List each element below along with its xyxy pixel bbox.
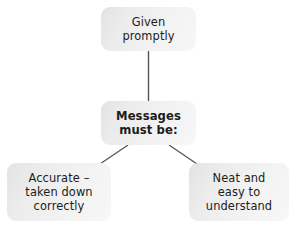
node-messages-must-be: Messages must be: <box>101 101 196 145</box>
node-neat: Neat and easy to understand <box>189 163 289 221</box>
node-neat-label: Neat and easy to understand <box>202 171 276 214</box>
flowchart-diagram: Given promptly Messages must be: Accurat… <box>0 0 296 227</box>
node-messages-must-be-label: Messages must be: <box>112 109 185 137</box>
node-given-promptly-label: Given promptly <box>118 15 178 43</box>
node-given-promptly: Given promptly <box>101 7 196 51</box>
node-accurate-label: Accurate – taken down correctly <box>21 171 96 214</box>
node-accurate: Accurate – taken down correctly <box>7 163 111 221</box>
